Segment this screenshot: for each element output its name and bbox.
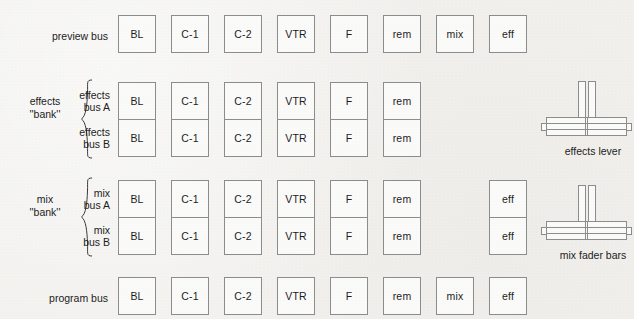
row-label-preview-bus: preview bus: [28, 30, 108, 42]
row-label-effects-bus-b: effects bus B: [40, 126, 110, 150]
button-mix-a-vtr[interactable]: VTR: [277, 180, 315, 218]
button-mix-b-c1[interactable]: C-1: [171, 217, 209, 255]
button-effects-a-vtr[interactable]: VTR: [277, 82, 315, 120]
button-preview-bus-c1[interactable]: C-1: [171, 15, 209, 53]
button-mix-a-bl[interactable]: BL: [118, 180, 156, 218]
button-mix-b-f[interactable]: F: [330, 217, 368, 255]
button-program-bus-rem[interactable]: rem: [383, 277, 421, 315]
button-mix-a-f[interactable]: F: [330, 180, 368, 218]
button-effects-b-f[interactable]: F: [330, 119, 368, 157]
button-effects-a-rem[interactable]: rem: [383, 82, 421, 120]
button-program-bus-bl[interactable]: BL: [118, 277, 156, 315]
button-preview-bus-rem[interactable]: rem: [383, 15, 421, 53]
button-program-bus-c1[interactable]: C-1: [171, 277, 209, 315]
button-preview-bus-c2[interactable]: C-2: [224, 15, 262, 53]
button-mix-b-c2[interactable]: C-2: [224, 217, 262, 255]
row-label-mix-bus-a: mix bus A: [40, 187, 110, 211]
button-preview-bus-mix[interactable]: mix: [436, 15, 474, 53]
button-mix-b-eff[interactable]: eff: [489, 217, 527, 255]
mix-fader-bars-icon[interactable]: [540, 184, 634, 246]
button-mix-a-rem[interactable]: rem: [383, 180, 421, 218]
button-preview-bus-vtr[interactable]: VTR: [277, 15, 315, 53]
button-effects-b-vtr[interactable]: VTR: [277, 119, 315, 157]
button-program-bus-mix[interactable]: mix: [436, 277, 474, 315]
caption-mix-fader-bars: mix fader bars: [533, 249, 634, 261]
button-effects-a-f[interactable]: F: [330, 82, 368, 120]
button-program-bus-vtr[interactable]: VTR: [277, 277, 315, 315]
button-effects-b-c1[interactable]: C-1: [171, 119, 209, 157]
button-program-bus-f[interactable]: F: [330, 277, 368, 315]
button-effects-a-c2[interactable]: C-2: [224, 82, 262, 120]
button-effects-b-c2[interactable]: C-2: [224, 119, 262, 157]
row-label-effects-bus-a: effects bus A: [40, 89, 110, 113]
button-mix-a-c1[interactable]: C-1: [171, 180, 209, 218]
button-effects-b-bl[interactable]: BL: [118, 119, 156, 157]
button-mix-a-c2[interactable]: C-2: [224, 180, 262, 218]
button-mix-b-vtr[interactable]: VTR: [277, 217, 315, 255]
video-switcher-panel-diagram: preview bus BL C-1 C-2 VTR F rem mix eff…: [0, 0, 634, 319]
caption-effects-lever: effects lever: [533, 145, 634, 157]
button-preview-bus-bl[interactable]: BL: [118, 15, 156, 53]
button-program-bus-eff[interactable]: eff: [489, 277, 527, 315]
paper-grain-overlay: [0, 0, 634, 319]
button-mix-a-eff[interactable]: eff: [489, 180, 527, 218]
button-effects-b-rem[interactable]: rem: [383, 119, 421, 157]
button-effects-a-c1[interactable]: C-1: [171, 82, 209, 120]
effects-lever-icon[interactable]: [540, 80, 634, 142]
button-program-bus-c2[interactable]: C-2: [224, 277, 262, 315]
row-label-mix-bus-b: mix bus B: [40, 224, 110, 248]
button-effects-a-bl[interactable]: BL: [118, 82, 156, 120]
button-mix-b-bl[interactable]: BL: [118, 217, 156, 255]
button-preview-bus-eff[interactable]: eff: [489, 15, 527, 53]
row-label-program-bus: program bus: [24, 292, 108, 304]
button-mix-b-rem[interactable]: rem: [383, 217, 421, 255]
button-preview-bus-f[interactable]: F: [330, 15, 368, 53]
